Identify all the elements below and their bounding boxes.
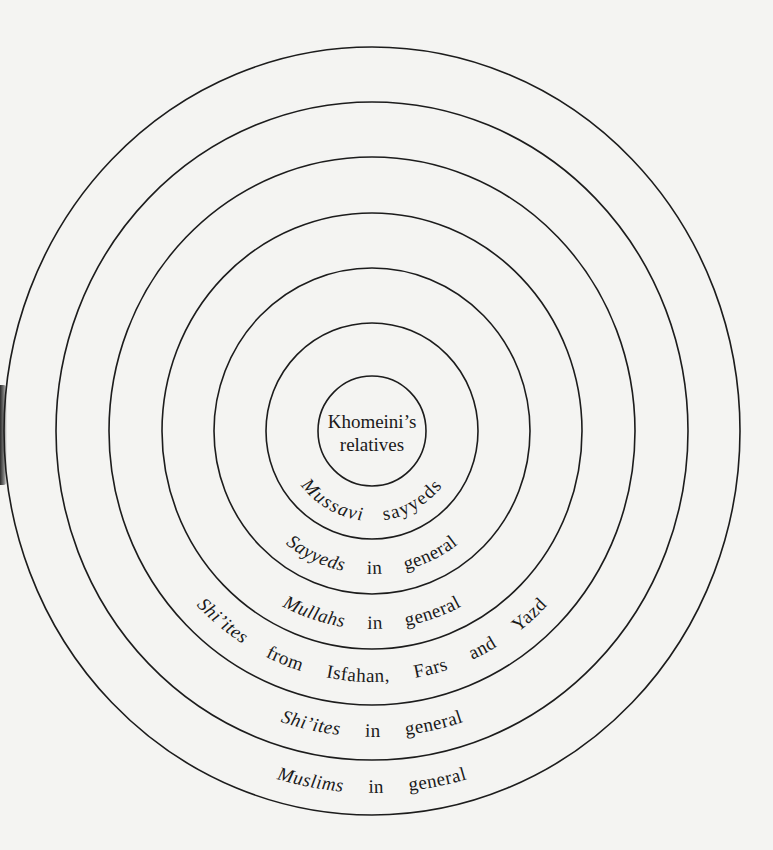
ring-4-label: Mullahs in general: [279, 591, 463, 634]
ring-6-label: Shi’ites in general: [279, 706, 465, 741]
center-label-line2: relatives: [340, 434, 404, 455]
ring-6-label-rest: in general: [340, 706, 465, 741]
ring-6-label-first: Shi’ites: [279, 706, 342, 739]
concentric-circles-diagram: Khomeini’s relatives Mussavi sayyeds Say…: [0, 0, 773, 850]
ring-2-label: Mussavi sayyeds: [297, 473, 446, 525]
ring-7-label: Muslims in general: [275, 762, 469, 797]
ring-3-label: Sayyeds in general: [283, 530, 461, 578]
ring-7-label-rest: in general: [343, 763, 469, 797]
center-label: Khomeini’s relatives: [328, 411, 417, 455]
ring-2-label-rest: sayyeds: [363, 474, 446, 525]
ring-7-label-first: Muslims: [275, 762, 345, 795]
ring-4-label-rest: in general: [344, 591, 464, 633]
ring-4-label-first: Mullahs: [279, 591, 347, 631]
center-label-line1: Khomeini’s: [328, 411, 417, 432]
ring-3-label-first: Sayyeds: [283, 530, 348, 575]
